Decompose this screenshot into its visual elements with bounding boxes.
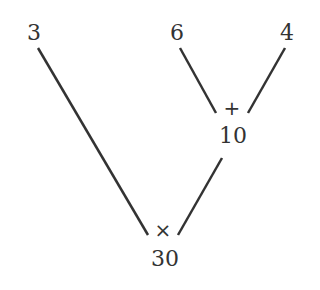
leaf-6: 6 xyxy=(170,22,184,44)
edge-6-to-add xyxy=(180,48,216,113)
leaf-4: 4 xyxy=(280,22,294,44)
leaf-3: 3 xyxy=(27,22,41,44)
add-result: 10 xyxy=(219,125,247,147)
edge-add-to-mul xyxy=(178,158,222,235)
multiply-operator: × xyxy=(155,219,172,241)
edge-4-to-add xyxy=(248,48,285,113)
plus-operator: + xyxy=(224,97,241,119)
multiply-result: 30 xyxy=(151,248,179,270)
edge-3-to-mul xyxy=(38,48,148,235)
